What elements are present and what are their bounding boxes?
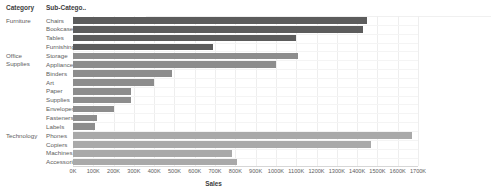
gridline	[418, 16, 419, 166]
bar-chairs[interactable]	[73, 17, 367, 24]
x-tick-1400K: 1400K	[349, 168, 365, 174]
subcategory-label-chairs[interactable]: Chairs	[46, 17, 64, 24]
x-tick-300K: 300K	[127, 168, 140, 174]
x-tick-1300K: 1300K	[329, 168, 345, 174]
gridline	[398, 16, 399, 166]
x-tick-700K: 700K	[209, 168, 222, 174]
column-headers: Category Sub-Catego..	[0, 4, 427, 16]
subcategory-label-machines[interactable]: Machines	[46, 149, 72, 156]
gridline	[377, 16, 378, 166]
x-tick-1600K: 1600K	[390, 168, 406, 174]
bar-machines[interactable]	[73, 150, 232, 157]
bar-binders[interactable]	[73, 70, 172, 77]
bar-bookcases[interactable]	[73, 26, 363, 33]
bar-fasteners[interactable]	[73, 115, 97, 122]
bar-appliances[interactable]	[73, 61, 276, 68]
subcategory-label-labels[interactable]: Labels	[46, 123, 64, 130]
subcategory-label-storage[interactable]: Storage	[46, 52, 68, 59]
row-separator	[73, 113, 418, 114]
category-label-furniture[interactable]: Furniture	[6, 17, 44, 25]
x-tick-1000K: 1000K	[268, 168, 284, 174]
x-tick-200K: 200K	[107, 168, 120, 174]
subcategory-label-paper[interactable]: Paper	[46, 87, 63, 94]
subcategory-label-binders[interactable]: Binders	[46, 70, 67, 77]
subcategory-label-art[interactable]: Art	[46, 79, 54, 86]
x-tick-1700K: 1700K	[410, 168, 426, 174]
x-tick-100K: 100K	[87, 168, 100, 174]
subcategory-column-header: Sub-Catego..	[46, 4, 86, 11]
bar-art[interactable]	[73, 79, 154, 86]
x-tick-1100K: 1100K	[288, 168, 304, 174]
bar-supplies[interactable]	[73, 97, 131, 104]
category-label-office-supplies[interactable]: Office Supplies	[6, 52, 44, 67]
bar-accessories[interactable]	[73, 159, 237, 166]
bar-phones[interactable]	[73, 132, 412, 139]
row-separator	[73, 122, 418, 123]
x-tick-800K: 800K	[229, 168, 242, 174]
bar-envelopes[interactable]	[73, 106, 114, 113]
x-tick-600K: 600K	[188, 168, 201, 174]
subcategory-label-phones[interactable]: Phones	[46, 132, 67, 139]
row-separator	[73, 104, 418, 105]
subcategory-label-tables[interactable]: Tables	[46, 34, 64, 41]
bar-copiers[interactable]	[73, 141, 371, 148]
category-column-header: Category	[6, 4, 34, 11]
x-tick-1200K: 1200K	[308, 168, 324, 174]
subcategory-label-bookcases[interactable]: Bookcases	[46, 25, 76, 32]
x-tick-0K: 0K	[70, 168, 77, 174]
x-axis-title: Sales	[0, 180, 427, 187]
subcategory-label-fasteners[interactable]: Fasteners	[46, 114, 74, 121]
x-tick-500K: 500K	[168, 168, 181, 174]
plot-area	[73, 16, 418, 166]
subcategory-label-appliances[interactable]: Appliances	[46, 61, 76, 68]
subcategory-label-supplies[interactable]: Supplies	[46, 96, 70, 103]
x-tick-900K: 900K	[249, 168, 262, 174]
bar-storage[interactable]	[73, 53, 298, 60]
x-axis-tick-labels: 0K100K200K300K400K500K600K700K800K900K10…	[0, 168, 427, 178]
x-axis-line	[73, 166, 418, 167]
x-tick-1500K: 1500K	[369, 168, 385, 174]
category-label-technology[interactable]: Technology	[6, 132, 44, 140]
subcategory-label-copiers[interactable]: Copiers	[46, 141, 67, 148]
x-tick-400K: 400K	[148, 168, 161, 174]
subcategory-label-envelopes[interactable]: Envelopes	[46, 105, 75, 112]
bar-labels[interactable]	[73, 123, 95, 130]
bar-paper[interactable]	[73, 88, 131, 95]
bar-tables[interactable]	[73, 35, 296, 42]
bar-furnishings[interactable]	[73, 44, 213, 51]
